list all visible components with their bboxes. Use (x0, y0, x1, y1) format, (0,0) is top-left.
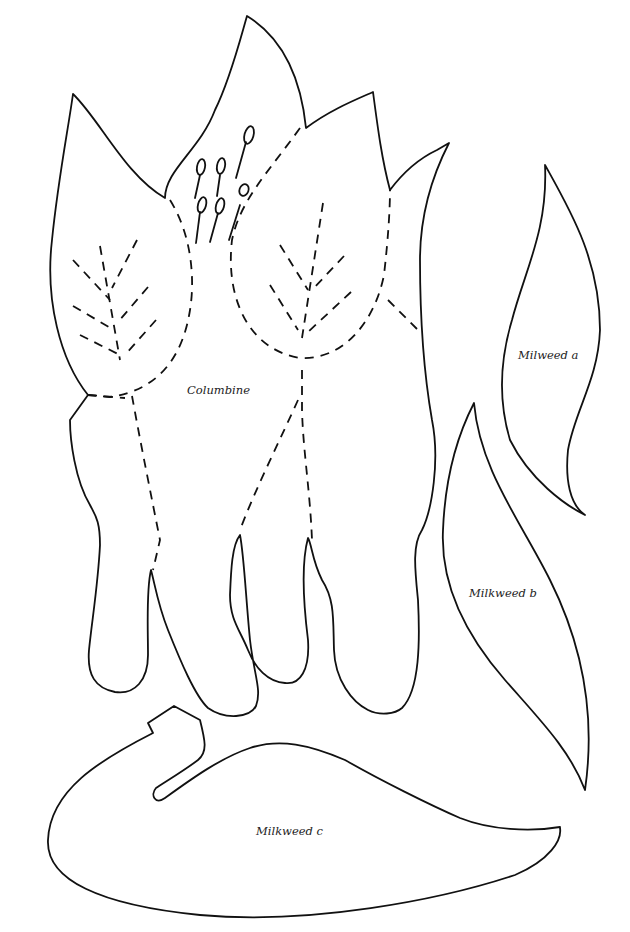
right-petal-fold-line (388, 300, 420, 332)
middle-petal-vein (308, 292, 351, 332)
milkweed-a-outline (502, 165, 600, 515)
milkweed-c-label: Milkweed c (256, 824, 323, 838)
middle-petal-vein-center (302, 203, 323, 338)
left-petal-vein (80, 335, 120, 355)
middle-petal-vein (312, 256, 344, 290)
middle-petal-vein (280, 245, 308, 290)
milkweed-c-outline (48, 706, 560, 917)
left-petal-vein-center (100, 246, 120, 360)
left-petal-vein (112, 240, 137, 288)
milkweed-a-label: Milweed a (518, 348, 578, 362)
left-petal-vein (125, 320, 156, 355)
stamens (195, 125, 256, 243)
left-petal-vein (73, 260, 110, 300)
columbine-outline (50, 16, 449, 716)
columbine-label: Columbine (187, 383, 250, 397)
columbine-piece (50, 16, 449, 716)
milkweed-b-label: Milkweed b (469, 586, 537, 600)
middle-stem-fold-line (302, 370, 312, 540)
left-petal-vein (73, 306, 114, 330)
middle-petal-fold-line (231, 128, 390, 358)
left-stem-fold-line (132, 396, 160, 570)
left-petal-vein (118, 287, 148, 322)
middle-petal-vein (270, 285, 298, 330)
inner-stem-fold-line (240, 400, 298, 530)
pattern-sheet: Columbine Milweed a Milkweed b Milkweed … (0, 0, 630, 932)
left-petal-fold-line (88, 200, 192, 397)
